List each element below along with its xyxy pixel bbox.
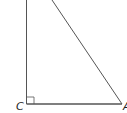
hypotenuse xyxy=(52,0,122,104)
vertex-label-c: C xyxy=(16,100,24,113)
right-angle-marker xyxy=(27,97,35,104)
vertex-label-a: A xyxy=(122,100,127,113)
triangle-diagram: C A xyxy=(0,0,127,113)
